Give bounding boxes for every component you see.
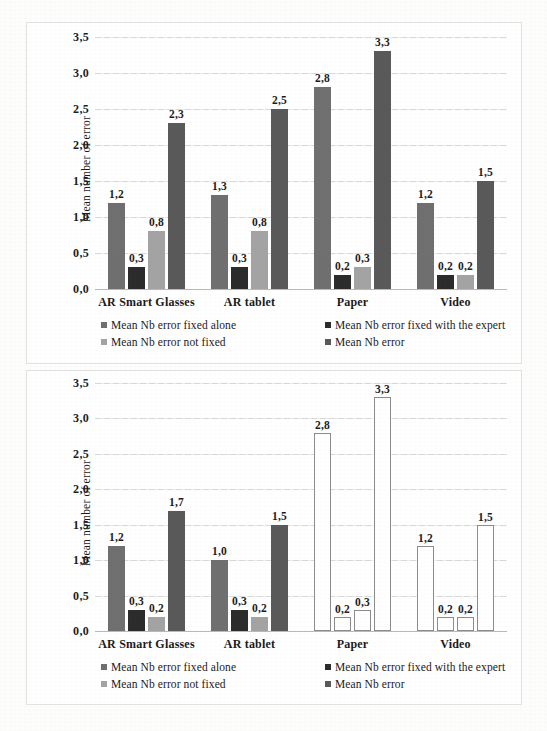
bar-value-label: 0,2: [438, 603, 453, 615]
bar[interactable]: 3,3: [374, 51, 391, 289]
bar-value-label: 1,5: [272, 510, 287, 522]
legend-item[interactable]: Mean Nb error not fixed: [101, 336, 226, 348]
bar-group: 1,20,30,82,3: [108, 37, 185, 289]
bar-value-label: 1,2: [418, 188, 433, 200]
bar[interactable]: 0,3: [231, 267, 248, 289]
bar[interactable]: 2,3: [168, 123, 185, 289]
y-axis-tick-label: 1,5: [73, 174, 89, 189]
bar[interactable]: 0,8: [148, 231, 165, 289]
bar-value-label: 1,2: [109, 531, 124, 543]
legend-label: Mean Nb error fixed with the expert: [335, 319, 505, 331]
bar-group: 1,30,30,82,5: [211, 37, 288, 289]
bar-value-label: 0,2: [252, 602, 267, 614]
bar[interactable]: 0,2: [457, 617, 474, 631]
category-label: Video: [440, 295, 471, 310]
legend-label: Mean Nb error: [335, 678, 405, 690]
bar[interactable]: 2,8: [314, 87, 331, 289]
bar[interactable]: 0,3: [354, 610, 371, 631]
legend-item[interactable]: Mean Nb error fixed with the expert: [325, 661, 505, 673]
bar[interactable]: 0,2: [251, 617, 268, 631]
category-label: AR tablet: [224, 637, 275, 652]
bar[interactable]: 0,3: [128, 267, 145, 289]
bar-group: 1,20,20,21,5: [417, 37, 494, 289]
y-axis-tick-label: 0,5: [73, 246, 89, 261]
legend-row: Mean Nb error fixed aloneMean Nb error f…: [101, 661, 511, 678]
bar[interactable]: 1,7: [168, 511, 185, 631]
bar-value-label: 0,3: [129, 595, 144, 607]
bar-value-label: 2,8: [315, 72, 330, 84]
legend-label: Mean Nb error fixed alone: [111, 661, 236, 673]
x-axis-line: [95, 631, 507, 632]
legend-item[interactable]: Mean Nb error fixed with the expert: [325, 319, 505, 331]
legend-label: Mean Nb error: [335, 336, 405, 348]
bar[interactable]: 1,3: [211, 195, 228, 289]
bar[interactable]: 0,2: [437, 275, 454, 289]
bar[interactable]: 0,3: [231, 610, 248, 631]
bar-value-label: 2,8: [315, 419, 330, 431]
bar[interactable]: 0,3: [354, 267, 371, 289]
y-axis-title-top: Mean number of error: [80, 116, 92, 222]
bar-value-label: 0,3: [232, 595, 247, 607]
legend-item[interactable]: Mean Nb error not fixed: [101, 678, 226, 690]
bar[interactable]: 1,5: [477, 181, 494, 289]
y-axis-tick-label: 3,0: [73, 66, 89, 81]
legend-swatch-icon: [101, 664, 107, 670]
bar-value-label: 2,3: [169, 108, 184, 120]
bar-value-label: 2,5: [272, 94, 287, 106]
bar-value-label: 3,3: [375, 36, 390, 48]
y-axis-tick-label: 2,0: [73, 138, 89, 153]
bar[interactable]: 0,3: [128, 610, 145, 631]
chart-panel-bottom: Mean number of error 0,00,51,01,52,02,53…: [26, 370, 522, 705]
bar-value-label: 0,8: [252, 216, 267, 228]
y-axis-title-bottom: Mean number of error: [80, 460, 92, 566]
bar[interactable]: 0,2: [334, 617, 351, 631]
bar[interactable]: 2,5: [271, 109, 288, 289]
x-axis-line: [95, 289, 507, 290]
bar[interactable]: 3,3: [374, 397, 391, 631]
y-axis-tick-label: 1,0: [73, 553, 89, 568]
y-axis-tick-label: 2,5: [73, 102, 89, 117]
bar-value-label: 1,5: [478, 166, 493, 178]
bar[interactable]: 1,2: [108, 203, 125, 289]
bar[interactable]: 0,2: [334, 275, 351, 289]
y-axis-tick-label: 1,0: [73, 210, 89, 225]
bar-value-label: 1,2: [418, 532, 433, 544]
bar[interactable]: 1,2: [417, 203, 434, 289]
y-axis-tick-label: 3,5: [73, 376, 89, 391]
bar[interactable]: 1,5: [477, 525, 494, 631]
category-label: Paper: [337, 295, 369, 310]
bar[interactable]: 0,2: [457, 275, 474, 289]
bar[interactable]: 0,2: [148, 617, 165, 631]
category-label: AR tablet: [224, 295, 275, 310]
category-label: AR Smart Glasses: [98, 295, 195, 310]
legend-label: Mean Nb error fixed with the expert: [335, 661, 505, 673]
bar-value-label: 1,0: [212, 545, 227, 557]
bar-group: 1,20,30,21,7: [108, 383, 185, 631]
legend-item[interactable]: Mean Nb error fixed alone: [101, 661, 236, 673]
chart-legend-bottom: Mean Nb error fixed aloneMean Nb error f…: [101, 661, 511, 695]
bar-group: 2,80,20,33,3: [314, 37, 391, 289]
category-label: Video: [440, 637, 471, 652]
bar-value-label: 0,3: [129, 252, 144, 264]
legend-swatch-icon: [101, 681, 107, 687]
chart-legend-top: Mean Nb error fixed aloneMean Nb error f…: [101, 319, 511, 353]
bar-value-label: 3,3: [375, 383, 390, 395]
bar[interactable]: 1,2: [108, 546, 125, 631]
bar[interactable]: 2,8: [314, 433, 331, 631]
legend-item[interactable]: Mean Nb error fixed alone: [101, 319, 236, 331]
bar[interactable]: 1,0: [211, 560, 228, 631]
bar-group: 1,00,30,21,5: [211, 383, 288, 631]
bar-value-label: 1,5: [478, 511, 493, 523]
plot-area-top: 1,20,30,82,31,30,30,82,52,80,20,33,31,20…: [95, 37, 507, 289]
bar[interactable]: 0,2: [437, 617, 454, 631]
legend-item[interactable]: Mean Nb error: [325, 678, 405, 690]
category-label: Paper: [337, 637, 369, 652]
bar[interactable]: 1,5: [271, 525, 288, 631]
document-page: de la table Figure mesures Comparaison T…: [0, 0, 547, 731]
legend-row: Mean Nb error fixed aloneMean Nb error f…: [101, 319, 511, 336]
legend-row: Mean Nb error not fixedMean Nb error: [101, 336, 511, 353]
legend-swatch-icon: [325, 339, 331, 345]
bar[interactable]: 0,8: [251, 231, 268, 289]
bar[interactable]: 1,2: [417, 546, 434, 631]
legend-item[interactable]: Mean Nb error: [325, 336, 405, 348]
